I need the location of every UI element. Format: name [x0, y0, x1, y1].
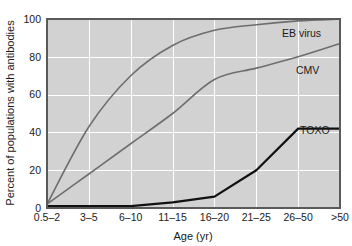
y-tick-label-100: 100 — [23, 13, 41, 25]
y-axis-title: Percent of populations with antibodies — [4, 20, 16, 206]
y-tick-label-40: 40 — [29, 126, 41, 138]
x-tick-label-3: 11–15 — [158, 211, 187, 223]
series-label-toxo: TOXO — [300, 124, 330, 136]
x-tick-label-4: 16–20 — [200, 211, 229, 223]
y-tick-label-60: 60 — [29, 88, 41, 100]
x-tick-label-2: 6–10 — [119, 211, 143, 223]
x-tick-label-0: 0.5–2 — [34, 211, 60, 223]
series-label-cmv: CMV — [296, 64, 319, 76]
x-tick-label-5: 21–25 — [242, 211, 271, 223]
x-tick-label-6: 26–50 — [284, 211, 313, 223]
chart-figure: 020406080100 0.5–23–56–1011–1516–2021–25… — [0, 0, 352, 246]
x-tick-label-1: 3–5 — [80, 211, 98, 223]
antibody-prevalence-line-chart: 020406080100 0.5–23–56–1011–1516–2021–25… — [0, 0, 352, 246]
x-axis-title: Age (yr) — [173, 230, 212, 242]
y-tick-label-80: 80 — [29, 51, 41, 63]
y-tick-label-20: 20 — [29, 164, 41, 176]
plot-area-background — [47, 19, 340, 208]
x-tick-label-7: >50 — [331, 211, 349, 223]
series-label-eb-virus: EB virus — [282, 27, 321, 39]
